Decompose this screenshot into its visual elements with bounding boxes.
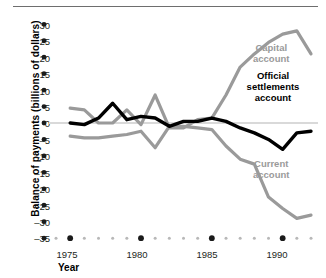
y-tick-dot (42, 137, 47, 142)
x-tick-dot-minor (295, 237, 298, 240)
y-axis-tick-dots (42, 22, 47, 241)
x-tick-dot-minor (182, 237, 185, 240)
y-tick-dot (42, 219, 47, 224)
x-tick-dot-minor (253, 237, 256, 240)
x-tick-dot-major (138, 235, 144, 241)
x-tick-dot-minor (267, 237, 270, 240)
series-line-current-account (70, 126, 311, 218)
y-tick-dot (42, 170, 47, 175)
x-tick-dot-major (280, 235, 286, 241)
x-tick-dot-minor (83, 237, 86, 240)
y-tick-dot (42, 154, 47, 159)
y-tick-dot (42, 236, 47, 241)
x-tick-dot-minor (225, 237, 228, 240)
x-tick-dot-minor (55, 237, 58, 240)
x-tick-dot-major (209, 235, 215, 241)
x-axis-tick-dots (55, 235, 313, 241)
x-tick-dot-minor (97, 237, 100, 240)
x-tick-dot-minor (239, 237, 242, 240)
series-line-capital-account (70, 31, 311, 128)
x-tick-dot-minor (196, 237, 199, 240)
x-tick-dot-minor (154, 237, 157, 240)
x-tick-dot-minor (310, 237, 313, 240)
y-tick-dot (42, 203, 47, 208)
y-tick-dot (42, 186, 47, 191)
y-tick-dot (42, 55, 47, 60)
y-tick-dot (42, 71, 47, 76)
x-tick-dot-minor (125, 237, 128, 240)
x-tick-dot-minor (168, 237, 171, 240)
y-tick-dot (42, 104, 47, 109)
series-paths (70, 31, 311, 219)
y-tick-dot (42, 22, 47, 27)
chart-figure: Balance of payments (billions of dollars… (0, 0, 326, 278)
x-tick-dot-major (67, 235, 73, 241)
x-tick-dot-minor (111, 237, 114, 240)
y-tick-dot (42, 38, 47, 43)
y-tick-dot (42, 88, 47, 93)
y-tick-dot (42, 121, 47, 126)
chart-plot-area (0, 0, 326, 278)
